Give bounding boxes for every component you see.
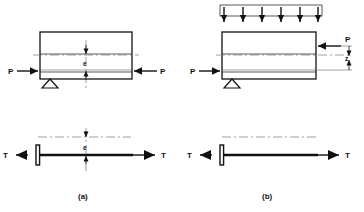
end-plate-a [36, 145, 40, 165]
force-label-left-a: P [8, 67, 14, 76]
panel-b-tension-group: T T [187, 137, 350, 165]
panel-a-tension-group: T T e [3, 128, 166, 172]
force-label-left-b: P [190, 67, 196, 76]
panel-b-beam-group: P P z [190, 32, 352, 88]
tension-label-left-a: T [3, 151, 8, 160]
caption-b: (b) [262, 192, 273, 201]
tension-label-right-a: T [161, 151, 166, 160]
panel-a-beam-group: P P e [8, 32, 166, 88]
eccentricity-label-a-tension: e [83, 144, 87, 151]
eccentricity-label-b: z [345, 55, 349, 62]
tension-label-left-b: T [187, 151, 192, 160]
caption-a: (a) [78, 192, 88, 201]
end-plate-b [220, 145, 224, 165]
pin-support-b [224, 79, 240, 88]
force-label-right-b: P [345, 35, 351, 44]
panel-b-distributed-load-group [220, 5, 322, 22]
eccentricity-label-a: e [83, 60, 87, 67]
pin-support-a [42, 79, 58, 88]
force-label-right-a: P [160, 67, 166, 76]
figure-root: P P e T T e (a) [0, 0, 364, 212]
distributed-load-bar-b [220, 5, 322, 16]
tension-label-right-b: T [345, 151, 350, 160]
